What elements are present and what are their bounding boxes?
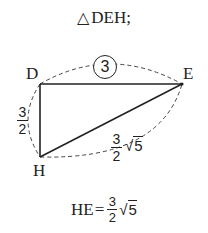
result-sqrt: √5	[119, 201, 137, 218]
side-dh-fraction: 3 2	[17, 105, 28, 136]
vertex-label-d: D	[26, 64, 38, 84]
denominator: 2	[109, 211, 116, 224]
side-he-fraction: 3 2	[111, 132, 122, 163]
result-equation: HE = 3 2 √5	[0, 195, 208, 224]
equals-sign: =	[95, 200, 105, 220]
numerator: 3	[113, 132, 121, 146]
sqrt-icon: √	[119, 201, 127, 218]
radicand: 5	[133, 136, 142, 154]
arc-dh	[28, 84, 40, 157]
vertex-label-e: E	[183, 64, 193, 84]
numerator: 3	[109, 195, 116, 208]
radicand: 5	[128, 200, 137, 218]
denominator: 2	[113, 149, 121, 163]
sqrt-icon: √	[125, 137, 133, 154]
side-de-circled-label: 3	[93, 55, 117, 79]
result-lhs: HE	[71, 200, 94, 220]
result-fraction: 3 2	[107, 195, 117, 224]
numerator: 3	[19, 105, 27, 119]
side-he-sqrt: √5	[125, 137, 143, 154]
denominator: 2	[19, 122, 27, 136]
vertex-label-h: H	[33, 161, 45, 181]
